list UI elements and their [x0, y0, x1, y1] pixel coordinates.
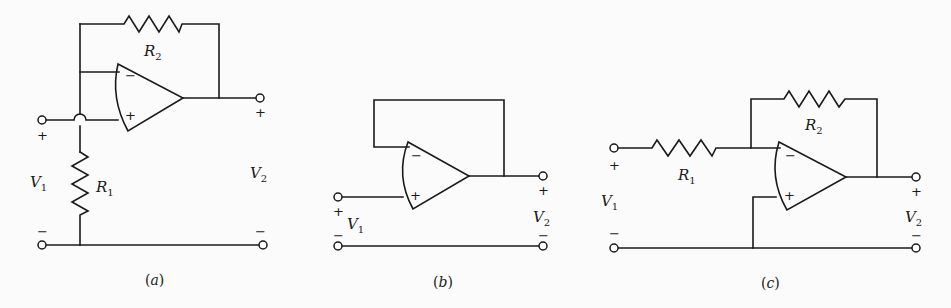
- input-voltage-label-b: V1: [347, 215, 364, 235]
- input-terminal-minus-a: [38, 241, 46, 249]
- caption-a: (a): [145, 272, 164, 288]
- input-terminal-plus-a: [38, 116, 46, 124]
- input-voltage-label-a: V1: [30, 173, 47, 193]
- input-terminal-minus-b: [334, 242, 342, 250]
- circuit-a: − + R2 R1 + V1 − + V2 − (a): [30, 16, 267, 288]
- caption-c: (c): [761, 275, 780, 291]
- input-terminal-plus-c: [610, 144, 618, 152]
- opamp-inverting-sign-b: −: [411, 148, 422, 163]
- r1-ground-resistor-a: [72, 152, 88, 245]
- input-minus-sign-b: −: [333, 228, 344, 243]
- opamp-circuits-figure: − + R2 R1 + V1 − + V2 − (a) − +: [0, 0, 951, 308]
- input-minus-sign-c: −: [609, 226, 620, 241]
- opamp-inverting-sign-c: −: [785, 148, 796, 163]
- input-plus-sign-c: +: [609, 158, 620, 173]
- input-voltage-label-c: V1: [601, 192, 618, 212]
- input-terminal-minus-c: [610, 244, 618, 252]
- output-minus-sign-c: −: [911, 228, 922, 243]
- opamp-noninverting-sign-b: +: [410, 188, 421, 203]
- input-plus-sign-b: +: [333, 204, 344, 219]
- output-terminal-minus-c: [912, 244, 920, 252]
- output-terminal-minus-a: [259, 241, 267, 249]
- circuit-c: − + R1 R2 + V1 − + V2 − (c): [601, 91, 922, 291]
- input-minus-sign-a: −: [37, 224, 48, 239]
- input-plus-sign-a: +: [37, 128, 48, 143]
- circuit-b: − + + V1 − + V2 − (b): [333, 100, 550, 290]
- feedback-wire-b: [374, 100, 504, 176]
- output-terminal-plus-c: [912, 173, 920, 181]
- opamp-noninverting-sign-a: +: [125, 108, 136, 123]
- noninverting-ground-wire-c: [753, 197, 776, 248]
- opamp-noninverting-sign-c: +: [784, 188, 795, 203]
- output-terminal-plus-b: [539, 172, 547, 180]
- r2-feedback-resistor-c: [751, 91, 877, 177]
- output-plus-sign-c: +: [911, 184, 922, 199]
- r2-label-c: R2: [804, 116, 823, 136]
- input-wire-a: [46, 114, 118, 120]
- output-terminal-plus-a: [256, 94, 264, 102]
- caption-b: (b): [433, 274, 453, 290]
- r1-label-c: R1: [677, 166, 696, 186]
- output-minus-sign-a: −: [255, 224, 266, 239]
- output-plus-sign-b: +: [538, 183, 549, 198]
- r1-input-resistor-c: [618, 140, 780, 156]
- output-voltage-label-b: V2: [533, 208, 550, 228]
- output-plus-sign-a: +: [255, 105, 266, 120]
- output-minus-sign-b: −: [538, 228, 549, 243]
- opamp-inverting-sign-a: −: [125, 68, 136, 83]
- output-voltage-label-a: V2: [250, 164, 267, 184]
- r1-label-a: R1: [95, 178, 114, 198]
- output-voltage-label-c: V2: [905, 208, 922, 228]
- input-terminal-plus-b: [334, 193, 342, 201]
- r2-label-a: R2: [143, 42, 162, 62]
- output-terminal-minus-b: [539, 242, 547, 250]
